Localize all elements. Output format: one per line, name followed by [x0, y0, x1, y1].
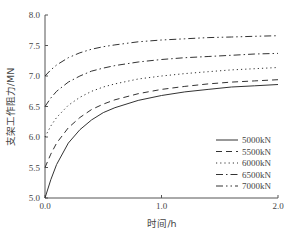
y-tick-label: 7.0 [29, 71, 41, 81]
y-tick-label: 6.5 [29, 102, 41, 112]
series-line-6500kN [45, 53, 278, 106]
x-tick-label: 0.0 [39, 201, 51, 211]
series-line-7000kN [45, 36, 278, 76]
legend-label: 6000kN [242, 158, 272, 168]
y-axis-label: 支架工作阻力/MN [5, 68, 16, 147]
legend: 5000kN5500kN6000kN6500kN7000kN [216, 135, 272, 191]
y-tick-label: 8.0 [29, 10, 41, 20]
legend-label: 7000kN [242, 181, 272, 191]
y-tick-label: 6.0 [29, 132, 41, 142]
legend-label: 6500kN [242, 170, 272, 180]
legend-label: 5000kN [242, 135, 272, 145]
x-axis-label: 时间/h [147, 218, 176, 229]
y-tick-label: 7.5 [29, 41, 41, 51]
series-line-6000kN [45, 68, 278, 138]
x-tick-label: 2.0 [272, 201, 284, 211]
x-tick-label: 1.0 [156, 201, 168, 211]
y-tick-label: 5.5 [29, 163, 41, 173]
legend-label: 5500kN [242, 147, 272, 157]
line-chart: 5.05.56.06.57.07.58.00.01.02.0 5000kN550… [0, 0, 290, 234]
